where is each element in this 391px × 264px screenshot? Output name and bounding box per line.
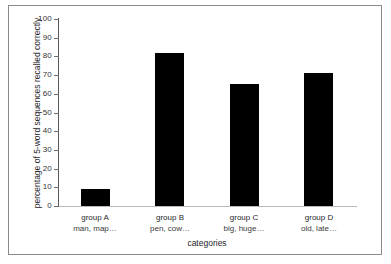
category-name: group C	[230, 213, 258, 222]
bar	[230, 84, 259, 206]
y-axis-tick	[54, 206, 59, 207]
category-name: group A	[81, 213, 109, 222]
x-axis-title: categories	[58, 238, 356, 248]
category-examples: old, late…	[271, 224, 367, 235]
category-name: group B	[156, 213, 184, 222]
x-axis-category-label: group Dold, late…	[271, 213, 367, 234]
figure-frame: 0102030405060708090100 group Aman, map…g…	[8, 5, 382, 255]
x-axis-line	[58, 206, 357, 207]
y-axis-title: percentage of 5-word sequences recalled …	[31, 16, 41, 209]
bar-series	[58, 19, 356, 206]
figure: 0102030405060708090100 group Aman, map…g…	[0, 0, 391, 264]
bar	[155, 53, 184, 206]
bar	[81, 189, 110, 206]
bar	[304, 73, 333, 206]
category-name: group D	[305, 213, 333, 222]
